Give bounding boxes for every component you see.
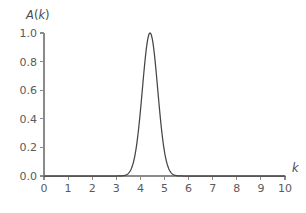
x-tick-label: 3: [113, 182, 120, 195]
y-tick-label: 0.4: [20, 113, 38, 126]
x-tick-label: 2: [89, 182, 96, 195]
x-tick-label: 4: [137, 182, 144, 195]
y-tick-label: 0.0: [20, 170, 38, 183]
y-axis-title: A(k): [25, 8, 50, 22]
x-axis-group: 012345678910: [41, 176, 293, 195]
y-tick-label: 0.6: [20, 84, 38, 97]
x-tick-label: 9: [257, 182, 264, 195]
y-tick-label: 0.2: [20, 141, 38, 154]
y-axis-tick-marks: [40, 33, 44, 176]
y-tick-label: 0.8: [20, 56, 38, 69]
x-axis-tick-labels: 012345678910: [41, 182, 293, 195]
amplitude-curve: [44, 33, 285, 176]
x-tick-label: 0: [41, 182, 48, 195]
x-tick-label: 7: [209, 182, 216, 195]
x-tick-label: 1: [65, 182, 72, 195]
y-tick-label: 1.0: [20, 27, 38, 40]
plot-area: 0.00.20.40.60.81.0 012345678910 A(k) k: [0, 0, 306, 213]
y-axis-tick-labels: 0.00.20.40.60.81.0: [20, 27, 38, 183]
x-tick-label: 10: [278, 182, 292, 195]
x-axis-title: k: [292, 161, 300, 175]
x-tick-label: 5: [161, 182, 168, 195]
x-tick-label: 8: [233, 182, 240, 195]
x-tick-label: 6: [185, 182, 192, 195]
y-axis-group: 0.00.20.40.60.81.0: [20, 27, 45, 183]
chart-figure: 0.00.20.40.60.81.0 012345678910 A(k) k: [0, 0, 306, 213]
